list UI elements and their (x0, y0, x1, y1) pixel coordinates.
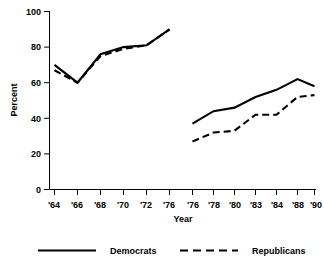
y-tick-label-40: 40 (31, 114, 41, 124)
line-chart: 100 80 60 40 20 0 Percent (0, 0, 324, 266)
x-tick-label-right-5: '88 (292, 200, 304, 210)
chart-container: 100 80 60 40 20 0 Percent (0, 0, 324, 266)
x-tick-label-left-2: '68 (94, 200, 106, 210)
legend-label-republicans: Republicans (252, 246, 306, 256)
x-tick-label-left-5: '76 (163, 200, 175, 210)
x-tick-label-left-3: '70 (117, 200, 129, 210)
y-axis-title: Percent (9, 83, 19, 116)
x-tick-label-right-0: '76 (187, 200, 199, 210)
x-axis-title: Year (173, 214, 193, 224)
x-tick-label-left-0: '64 (48, 200, 60, 210)
y-tick-label-60: 60 (31, 78, 41, 88)
x-tick-label-left-1: '66 (71, 200, 83, 210)
y-tick-label-100: 100 (26, 7, 41, 17)
x-tick-label-right-6: '90 (310, 200, 322, 210)
y-tick-label-80: 80 (31, 42, 41, 52)
legend-label-democrats: Democrats (110, 246, 157, 256)
x-tick-label-right-1: '78 (208, 200, 220, 210)
x-tick-label-right-2: '80 (229, 200, 241, 210)
x-axis-tick-labels-right: '76 '78 '80 '83 '84 '88 '90 (187, 200, 322, 210)
x-tick-label-right-3: '83 (250, 200, 262, 210)
y-tick-label-20: 20 (31, 149, 41, 159)
chart-background (0, 0, 324, 266)
y-tick-label-0: 0 (36, 185, 41, 195)
x-tick-label-right-4: '84 (271, 200, 283, 210)
x-tick-label-left-4: '72 (140, 200, 152, 210)
